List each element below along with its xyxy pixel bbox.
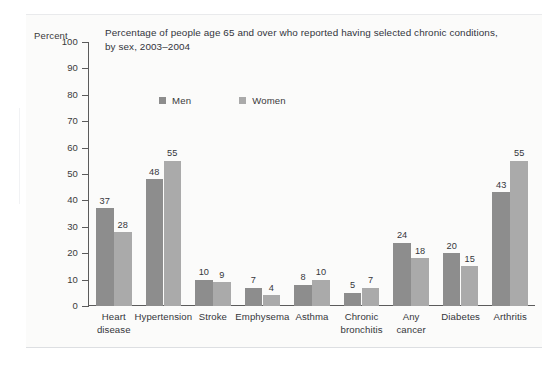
bar-men [443,253,461,306]
left-edge-artifact [19,108,20,204]
bar-men [492,192,510,306]
y-axis-tick-label: 20 [50,247,78,258]
bar-women [411,258,429,306]
category-label-line: cancer [380,324,442,337]
bar-group: 109 [188,42,238,306]
bar-value-label: 55 [514,148,524,158]
y-axis-tick-label-wrap: 10 [44,274,78,286]
y-axis-tick-label-wrap: 30 [44,221,78,233]
bar-women [312,280,330,306]
y-axis-tick-label: 80 [50,89,78,100]
bar-men [393,243,411,306]
bar-value-label: 9 [219,270,224,280]
bar-value-label: 5 [350,280,355,290]
y-axis-tick-label: 10 [50,274,78,285]
bar-men [294,285,312,306]
bar-value-label: 7 [368,275,373,285]
chart-panel: Percent Percentage of people age 65 and … [26,15,542,347]
bar-value-label: 20 [446,241,456,251]
bar-men [146,179,164,306]
y-axis-tick-label-wrap: 20 [44,247,78,259]
bar-value-label: 55 [167,148,177,158]
y-axis-tick-mark [82,148,89,149]
y-axis-tick-mark [82,227,89,228]
y-axis-tick-mark [82,253,89,254]
y-axis-tick-label-wrap: 50 [44,168,78,180]
y-axis-tick-mark [82,200,89,201]
bar-men [245,288,263,306]
y-axis-tick-mark [82,306,89,307]
y-axis-tick-label-wrap: 70 [44,115,78,127]
bar-women [114,232,132,306]
bar-group: 810 [287,42,337,306]
bar-group: 4355 [485,42,535,306]
chart-screenshot: Percent Percentage of people age 65 and … [0,0,557,366]
y-axis-tick-label: 100 [50,36,78,47]
y-axis-tick-label: 30 [50,221,78,232]
bar-group: 4855 [139,42,189,306]
category-label: Arthritis [479,311,541,324]
bar-group: 57 [337,42,387,306]
y-axis-tick-mark [82,68,89,69]
bar-value-label: 10 [199,267,209,277]
bar-women [362,288,380,306]
bar-value-label: 10 [316,267,326,277]
y-axis-tick-label: 60 [50,142,78,153]
bar-value-label: 28 [118,220,128,230]
bar-value-label: 43 [496,180,506,190]
category-label-line: disease [83,324,145,337]
bar-group: 3728 [89,42,139,306]
bar-women [213,282,231,306]
y-axis-tick-label: 50 [50,168,78,179]
bar-women [461,266,479,306]
plot-area: 372848551097481057241820154355 [89,42,535,306]
y-axis-tick-label: 40 [50,194,78,205]
bar-women [263,295,281,306]
bar-men [344,293,362,306]
y-axis-tick-label-wrap: 100 [44,36,78,48]
y-axis-tick-label-wrap: 90 [44,62,78,74]
bar-value-label: 37 [100,196,110,206]
y-axis-tick-label: 70 [50,115,78,126]
bar-men [195,280,213,306]
bar-value-label: 15 [464,254,474,264]
y-axis-tick-label: 0 [50,300,78,311]
bar-group: 2418 [386,42,436,306]
bar-group: 2015 [436,42,486,306]
y-axis-tick-mark [82,280,89,281]
y-axis-tick-label-wrap: 40 [44,194,78,206]
y-axis-tick-label-wrap: 0 [44,300,78,312]
bar-group: 74 [238,42,288,306]
bar-value-label: 48 [149,167,159,177]
y-axis-tick-mark [82,95,89,96]
y-axis-tick-label: 90 [50,62,78,73]
y-axis-tick-mark [82,174,89,175]
bar-value-label: 4 [269,283,274,293]
y-axis-tick-mark [82,42,89,43]
y-axis-tick-label-wrap: 80 [44,89,78,101]
bar-value-label: 24 [397,230,407,240]
y-axis-tick-label-wrap: 60 [44,142,78,154]
chart-title-line-1: Percentage of people age 65 and over who… [105,27,498,38]
category-axis-labels: HeartdiseaseHypertensionStrokeEmphysemaA… [89,311,535,345]
category-label-line: Arthritis [479,311,541,324]
bar-value-label: 18 [415,246,425,256]
bar-women [164,161,182,306]
page-bottom-rule [26,347,542,348]
bar-men [96,208,114,306]
bar-women [510,161,528,306]
y-axis-tick-mark [82,121,89,122]
bar-value-label: 7 [251,275,256,285]
bar-value-label: 8 [300,272,305,282]
